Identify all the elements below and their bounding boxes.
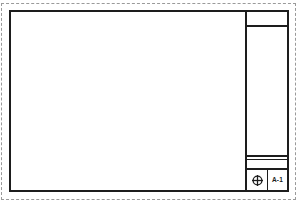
drawing-sheet: A-1: [0, 0, 304, 206]
title-block-header-cell[interactable]: [247, 12, 287, 27]
title-block-revision-cell[interactable]: [247, 159, 287, 168]
title-block-footer-row: A-1: [247, 168, 287, 190]
title-block: A-1: [245, 12, 287, 190]
title-block-logo-cell[interactable]: [247, 170, 268, 190]
target-crosshair-icon: [251, 174, 264, 187]
title-block-body-cell[interactable]: [247, 27, 287, 155]
drawing-frame: A-1: [9, 10, 289, 192]
drawing-field[interactable]: [11, 12, 245, 190]
sheet-number-label: A-1: [272, 177, 283, 184]
title-block-sheet-number-cell[interactable]: A-1: [268, 170, 287, 190]
